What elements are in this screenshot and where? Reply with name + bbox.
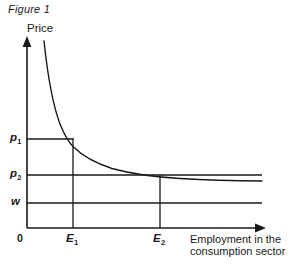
y-tick-symbol-p2: p	[10, 167, 17, 179]
x-axis-title-line1: Employment in the	[190, 234, 296, 246]
y-tick-subscript-p2: 2	[17, 173, 21, 182]
x-tick-subscript-e2: 2	[161, 238, 165, 247]
x-tick-label-e1: E1	[66, 232, 78, 244]
x-axis-arrowhead	[255, 224, 266, 233]
y-tick-symbol-w: w	[11, 195, 20, 207]
x-axis-title: Employment in the consumption sector	[190, 234, 296, 257]
origin-label: 0	[17, 232, 23, 244]
demand-curve	[44, 41, 262, 181]
y-tick-subscript-p1: 1	[17, 137, 21, 146]
y-tick-label-w: w	[11, 195, 20, 207]
figure-container: Figure 1 Price p1 p2 w E1 E2 0 Employmen…	[0, 0, 297, 267]
y-tick-symbol-p1: p	[10, 131, 17, 143]
y-tick-label-p2: p2	[10, 167, 21, 179]
x-axis-title-line2: consumption sector	[190, 246, 296, 258]
y-axis-arrowhead	[23, 36, 32, 47]
x-tick-subscript-e1: 1	[74, 238, 78, 247]
x-tick-symbol-e2: E	[153, 232, 161, 244]
x-tick-symbol-e1: E	[66, 232, 74, 244]
plot-area	[0, 0, 297, 267]
y-tick-label-p1: p1	[10, 131, 21, 143]
x-tick-label-e2: E2	[153, 232, 165, 244]
